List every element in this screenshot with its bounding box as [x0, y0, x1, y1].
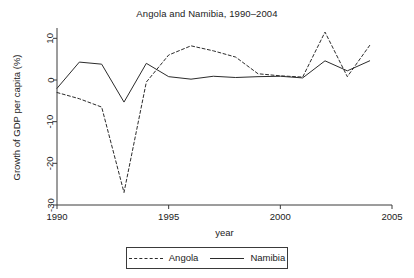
legend-swatch-namibia-solid-icon — [210, 258, 244, 259]
y-tick-label--10: -10 — [45, 115, 56, 129]
y-tick-label-0: 0 — [45, 77, 56, 82]
plot-area: 100-10-20-301990199520002005yearGrowth o… — [0, 0, 414, 278]
y-tick-label--30: -30 — [45, 198, 56, 212]
legend-label-namibia: Namibia — [250, 253, 285, 263]
legend-label-angola: Angola — [169, 253, 199, 263]
chart-legend: Angola Namibia — [126, 247, 288, 269]
legend-swatch-angola-dashed-icon — [129, 258, 163, 259]
chart-figure: Angola and Namibia, 1990–2004 100-10-20-… — [0, 0, 414, 278]
y-axis-title: Growth of GDP per capita (%) — [11, 54, 22, 180]
y-tick-label-10: 10 — [45, 33, 56, 44]
x-tick-label-1995: 1995 — [158, 211, 179, 222]
series-line-namibia — [57, 61, 370, 102]
x-tick-label-2005: 2005 — [381, 211, 402, 222]
legend-item-angola: Angola — [123, 253, 205, 263]
y-tick-label--20: -20 — [45, 156, 56, 170]
x-tick-label-1990: 1990 — [46, 211, 67, 222]
x-tick-label-2000: 2000 — [270, 211, 291, 222]
series-line-angola — [57, 32, 370, 192]
x-axis-title: year — [215, 227, 233, 238]
legend-item-namibia: Namibia — [204, 253, 291, 263]
